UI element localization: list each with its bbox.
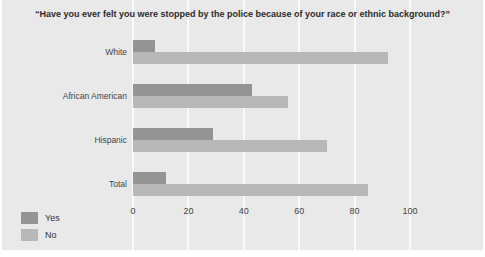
legend-item-no: No bbox=[21, 228, 60, 241]
category-label: Total bbox=[2, 172, 127, 196]
bar-no bbox=[133, 96, 288, 108]
x-axis-tick: 60 bbox=[294, 206, 304, 216]
bar-group bbox=[133, 84, 288, 108]
bar-yes bbox=[133, 128, 213, 140]
legend-item-yes: Yes bbox=[21, 211, 60, 224]
category-label: Hispanic bbox=[2, 128, 127, 152]
bar-no bbox=[133, 140, 327, 152]
bar-group bbox=[133, 40, 388, 64]
chart-panel: “Have you ever felt you were stopped by … bbox=[2, 0, 483, 250]
category-row-total: Total bbox=[2, 172, 483, 196]
bar-no bbox=[133, 184, 368, 196]
category-row-white: White bbox=[2, 40, 483, 64]
bar-yes bbox=[133, 40, 155, 52]
legend-label: Yes bbox=[45, 213, 60, 223]
bar-group bbox=[133, 128, 327, 152]
bar-yes bbox=[133, 84, 252, 96]
bar-yes bbox=[133, 172, 166, 184]
legend: Yes No bbox=[21, 211, 60, 245]
legend-label: No bbox=[45, 230, 57, 240]
legend-swatch-yes bbox=[21, 212, 38, 224]
x-axis-tick: 20 bbox=[183, 206, 193, 216]
category-row-african-american: African American bbox=[2, 84, 483, 108]
x-axis-tick: 40 bbox=[239, 206, 249, 216]
category-label: African American bbox=[2, 84, 127, 108]
x-axis-tick: 80 bbox=[350, 206, 360, 216]
chart-title: “Have you ever felt you were stopped by … bbox=[2, 9, 483, 19]
category-row-hispanic: Hispanic bbox=[2, 128, 483, 152]
legend-swatch-no bbox=[21, 229, 38, 241]
bar-group bbox=[133, 172, 368, 196]
bar-no bbox=[133, 52, 388, 64]
category-label: White bbox=[2, 40, 127, 64]
x-axis-tick: 0 bbox=[130, 206, 135, 216]
x-axis-tick: 100 bbox=[402, 206, 417, 216]
